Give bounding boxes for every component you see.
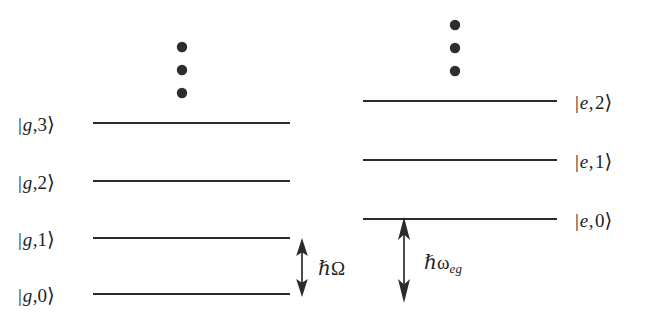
state-symbol: g — [22, 285, 33, 306]
level-label-e0: |e, 0⟩ — [575, 210, 612, 230]
state-symbol: e — [579, 92, 588, 113]
ellipsis-dot-icon — [450, 66, 460, 76]
quantum-number: 3 — [37, 114, 47, 135]
quantum-number: 0 — [37, 285, 47, 306]
ellipsis-dot-icon — [177, 65, 187, 75]
ground-manifold-lines — [93, 123, 290, 294]
omega-symbol: Ω — [331, 258, 345, 279]
hbar-symbol: ℏ — [424, 251, 437, 273]
state-symbol: e — [579, 210, 588, 231]
transition-energy-arrow-icon — [398, 217, 410, 303]
state-symbol: e — [579, 151, 588, 172]
hbar-symbol: ℏ — [318, 257, 331, 279]
state-symbol: g — [22, 172, 33, 193]
state-symbol: g — [22, 229, 33, 250]
level-label-e2: |e, 2⟩ — [575, 92, 612, 112]
subscript-eg: eg — [449, 261, 462, 276]
rabi-splitting-arrow-icon — [296, 238, 308, 297]
quantum-number: 2 — [37, 172, 47, 193]
level-label-g2: |g,2⟩ — [18, 172, 55, 192]
level-label-e1: |e, 1⟩ — [575, 151, 612, 171]
quantum-number: 0 — [595, 210, 605, 231]
level-label-g1: |g,1⟩ — [18, 229, 55, 249]
energy-level-diagram: |g,3⟩ |g,2⟩ |g,1⟩ |g,0⟩ |e, 2⟩ |e, 1⟩ |e… — [0, 0, 650, 318]
transition-energy-label: ℏωeg — [424, 252, 462, 275]
omega-symbol: ω — [437, 252, 450, 273]
quantum-number: 2 — [595, 92, 605, 113]
level-label-g0: |g,0⟩ — [18, 285, 55, 305]
ground-ellipsis-dots — [177, 42, 187, 98]
excited-ellipsis-dots — [450, 20, 460, 76]
quantum-number: 1 — [37, 229, 47, 250]
ellipsis-dot-icon — [177, 42, 187, 52]
state-symbol: g — [22, 114, 33, 135]
ellipsis-dot-icon — [177, 88, 187, 98]
ellipsis-dot-icon — [450, 43, 460, 53]
excited-manifold-lines — [363, 101, 557, 219]
rabi-splitting-label: ℏΩ — [318, 258, 345, 278]
ellipsis-dot-icon — [450, 20, 460, 30]
level-label-g3: |g,3⟩ — [18, 114, 55, 134]
quantum-number: 1 — [595, 151, 605, 172]
